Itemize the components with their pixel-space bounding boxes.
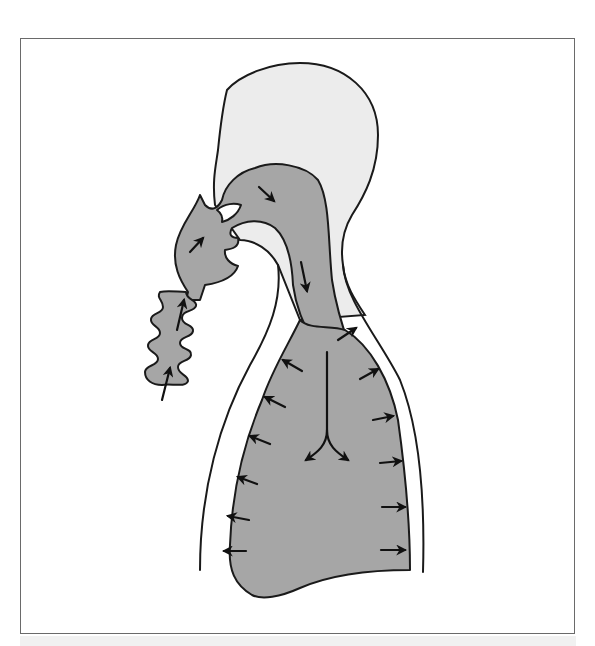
respiratory-diagram [0, 0, 595, 646]
upper-airway [175, 164, 350, 348]
corrugated-breathing-tube [145, 291, 196, 385]
lung-cavity [230, 320, 410, 597]
